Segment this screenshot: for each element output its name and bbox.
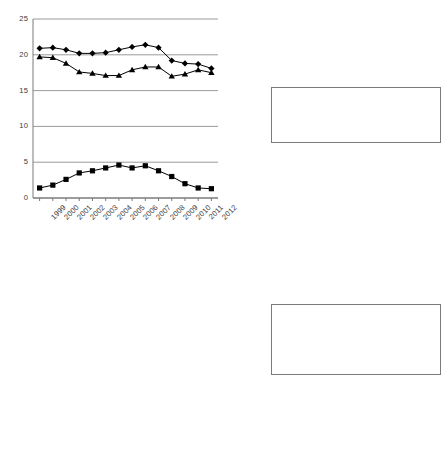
- y-tick-label: 25: [8, 14, 28, 23]
- y-tick-label: 20: [8, 50, 28, 59]
- y-tick-label: 5: [8, 157, 28, 166]
- y-tick-label: 15: [8, 86, 28, 95]
- y-tick-label: 10: [8, 121, 28, 130]
- y-tick-label: 0: [8, 193, 28, 202]
- figure-two-line-charts: 0510152025 19992000200120022003200420052…: [0, 0, 446, 464]
- legend-bottom: [271, 304, 441, 375]
- legend-top: [271, 87, 441, 143]
